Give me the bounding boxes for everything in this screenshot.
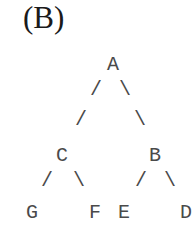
edge-c-g: /	[40, 171, 54, 191]
edge-a-c-lower: /	[74, 110, 88, 130]
node-b: B	[148, 146, 162, 166]
node-c: C	[55, 146, 69, 166]
node-d: D	[179, 203, 193, 223]
edge-a-c-upper: /	[89, 80, 103, 100]
edge-c-f: \	[72, 171, 86, 191]
edge-a-b-upper: \	[118, 80, 132, 100]
figure-label: (B)	[23, 2, 64, 33]
node-e: E	[117, 203, 131, 223]
edge-a-b-lower: \	[133, 110, 147, 130]
node-g: G	[25, 203, 39, 223]
node-f: F	[88, 203, 102, 223]
node-a: A	[106, 55, 120, 75]
edge-b-d: \	[163, 171, 177, 191]
edge-b-e: /	[134, 171, 148, 191]
